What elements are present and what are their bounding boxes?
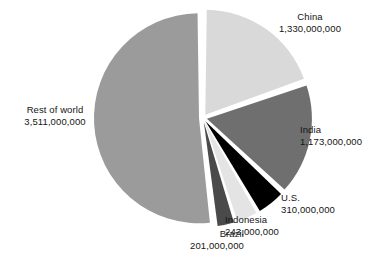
pie-label-india-value: 1,173,000,000 [300, 136, 386, 148]
pie-slice-rest-of-world[interactable] [94, 13, 210, 223]
pie-label-us: U.S. 310,000,000 [281, 192, 367, 215]
pie-label-rest-of-world-value: 3,511,000,000 [6, 116, 104, 128]
pie-label-china-value: 1,330,000,000 [262, 23, 358, 35]
pie-slices [94, 10, 312, 226]
pie-label-india: India 1,173,000,000 [300, 124, 386, 147]
pie-chart: China 1,330,000,000 India 1,173,000,000 … [0, 0, 387, 261]
pie-label-brazil-value: 201,000,000 [152, 240, 244, 252]
pie-label-rest-of-world: Rest of world 3,511,000,000 [6, 104, 104, 127]
pie-label-india-name: India [300, 124, 386, 136]
pie-label-china-name: China [262, 11, 358, 23]
pie-label-rest-of-world-name: Rest of world [6, 104, 104, 116]
pie-label-us-name: U.S. [281, 192, 367, 204]
pie-label-brazil-name: Brazil [152, 228, 244, 240]
pie-label-brazil: Brazil 201,000,000 [152, 228, 244, 251]
pie-label-china: China 1,330,000,000 [262, 11, 358, 34]
pie-label-indonesia-name: Indonesia [225, 214, 311, 226]
